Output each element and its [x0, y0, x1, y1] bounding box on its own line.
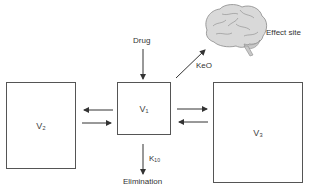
k10-label: K₁₀: [149, 154, 160, 163]
compartment-v3: V₃: [213, 82, 303, 183]
effect-site-label: Effect site: [266, 28, 301, 37]
compartment-v2: V₂: [6, 82, 76, 169]
ke0-label: KeO: [196, 61, 212, 70]
compartment-v1: V₁: [117, 82, 171, 135]
brain-icon: [206, 5, 267, 56]
v1-label: V₁: [139, 104, 148, 114]
v2-label: V₂: [36, 121, 46, 131]
elimination-label: Elimination: [123, 177, 162, 186]
v3-label: V₃: [253, 128, 263, 138]
drug-label: Drug: [133, 36, 150, 45]
